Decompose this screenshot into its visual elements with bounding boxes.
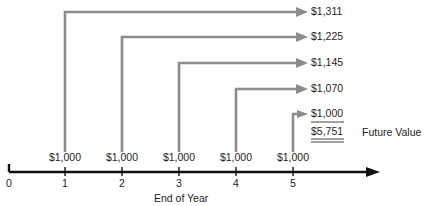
flow-line-year-3 — [179, 63, 300, 152]
flow-line-year-5 — [293, 114, 300, 152]
axis-arrow-icon — [366, 167, 380, 177]
tick-label-4: 4 — [233, 177, 239, 189]
payment-year-1: $1,000 — [49, 151, 81, 163]
payment-year-2: $1,000 — [106, 151, 138, 163]
tick-label-5: 5 — [290, 177, 296, 189]
flow-line-year-4 — [236, 89, 300, 152]
total-future-value: $5,751 — [311, 125, 343, 137]
future-value-year-2: $1,225 — [311, 30, 343, 42]
payment-year-3: $1,000 — [163, 151, 195, 163]
future-value-year-4: $1,070 — [311, 82, 343, 94]
arrowhead-icon — [296, 32, 308, 42]
tick-label-3: 3 — [176, 177, 182, 189]
payment-year-4: $1,000 — [220, 151, 252, 163]
tick-label-0: 0 — [6, 177, 12, 189]
arrowhead-icon — [296, 84, 308, 94]
tick-label-2: 2 — [119, 177, 125, 189]
arrowhead-icon — [296, 58, 308, 68]
future-value-year-3: $1,145 — [311, 56, 343, 68]
future-value-year-5: $1,000 — [311, 107, 343, 119]
flow-line-year-1 — [65, 12, 300, 152]
total-label: Future Value — [362, 126, 421, 138]
flow-line-year-2 — [122, 37, 300, 152]
arrowhead-icon — [296, 7, 308, 17]
axis-label: End of Year — [154, 192, 208, 204]
payment-year-5: $1,000 — [277, 151, 309, 163]
future-value-year-1: $1,311 — [311, 5, 342, 17]
tick-label-1: 1 — [62, 177, 68, 189]
arrowhead-icon — [297, 110, 308, 118]
timeline-diagram — [0, 0, 426, 206]
